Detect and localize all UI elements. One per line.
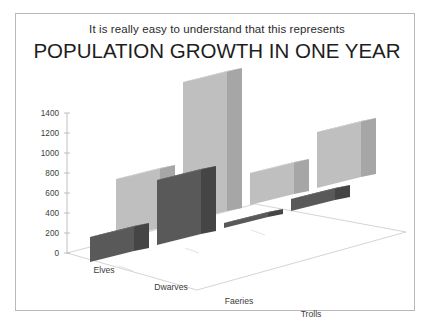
- y-tick-label: 0: [54, 249, 59, 258]
- category-label-elves: Elves: [93, 265, 114, 275]
- y-tick-label: 600: [45, 189, 59, 198]
- y-tick-label: 1000: [41, 149, 60, 158]
- y-axis: 1400 1200 1000 800 600 400 200 0: [41, 109, 70, 258]
- bar-chart-3d-svg: 1400 1200 1000 800 600 400 200 0: [0, 0, 434, 335]
- chart-plot-area: 1400 1200 1000 800 600 400 200 0: [0, 0, 434, 335]
- y-tick-label: 1400: [41, 109, 60, 118]
- y-axis-tick-labels: 1400 1200 1000 800 600 400 200 0: [41, 109, 60, 258]
- chart-page: It is really easy to understand that thi…: [0, 0, 434, 335]
- y-tick-label: 200: [45, 229, 59, 238]
- category-label-trolls: Trolls: [301, 309, 322, 319]
- category-label-dwarves: Dwarves: [154, 282, 187, 292]
- bar-trolls-series2: [317, 118, 376, 188]
- category-label-faeries: Faeries: [225, 296, 254, 306]
- y-tick-label: 800: [45, 169, 59, 178]
- y-tick-label: 1200: [41, 129, 60, 138]
- y-tick-label: 400: [45, 209, 59, 218]
